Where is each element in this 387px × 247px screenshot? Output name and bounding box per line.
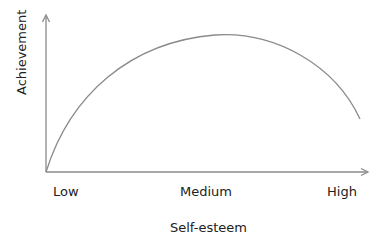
x-tick-low: Low <box>53 184 79 199</box>
achievement-curve <box>46 35 360 172</box>
x-axis-label: Self-esteem <box>170 220 247 235</box>
x-tick-high: High <box>327 184 357 199</box>
x-tick-medium: Medium <box>180 184 232 199</box>
chart-canvas <box>0 0 387 247</box>
y-axis-label: Achievement <box>14 10 29 95</box>
